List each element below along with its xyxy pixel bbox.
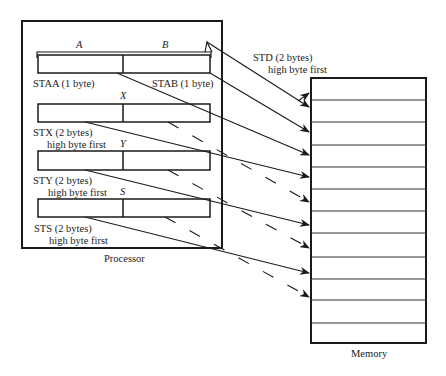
register-ab (38, 55, 210, 73)
memory-label: Memory (351, 348, 387, 360)
arrow-std-high (298, 93, 309, 101)
processor-label: Processor (104, 253, 145, 265)
register-s-name: S (120, 186, 125, 198)
register-a-name: A (76, 39, 82, 51)
memory-box (311, 78, 426, 343)
stx-label: STX (2 bytes) (33, 127, 93, 139)
register-y (38, 151, 210, 170)
staa-label: STAA (1 byte) (33, 78, 95, 90)
sty-label: STY (2 bytes) (33, 175, 92, 187)
register-s (38, 199, 210, 217)
register-y-name: Y (120, 138, 126, 150)
stab-label: STAB (1 byte) (152, 78, 214, 90)
register-x (38, 104, 210, 122)
arrow-stab (210, 73, 309, 132)
std-sublabel: high byte first (268, 64, 327, 76)
sts-sublabel: high byte first (49, 235, 108, 247)
std-label: STD (2 bytes) (253, 52, 313, 64)
stx-sublabel: high byte first (47, 139, 106, 151)
register-x-name: X (120, 90, 126, 102)
sty-sublabel: high byte first (48, 187, 107, 199)
sts-label: STS (2 bytes) (34, 223, 92, 235)
arrow-sts-low (165, 217, 309, 297)
register-b-name: B (162, 39, 168, 51)
